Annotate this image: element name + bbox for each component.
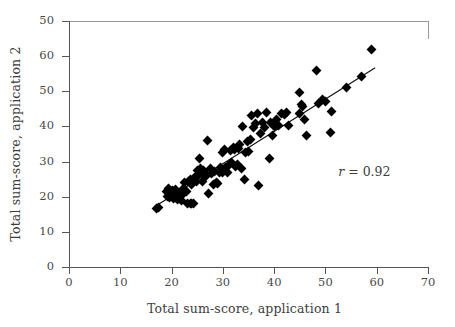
x-axis-tick	[377, 268, 378, 274]
plot-area	[69, 21, 428, 267]
x-axis-title: Total sum-score, application 1	[0, 301, 455, 316]
x-axis-tick-label: 50	[305, 277, 345, 289]
x-axis-tick-label: 0	[49, 277, 89, 289]
y-axis-tick-label: 60	[14, 50, 54, 62]
x-axis-tick	[325, 268, 326, 274]
x-axis-tick-label: 70	[408, 277, 448, 289]
y-axis-tick	[62, 91, 69, 92]
x-axis-tick	[428, 268, 429, 274]
x-axis-tick-label: 40	[254, 277, 294, 289]
y-axis-tick-label: 50	[14, 85, 54, 97]
x-axis-tick	[120, 268, 121, 274]
y-axis-tick	[62, 162, 69, 163]
y-axis-title: Total sum-score, application 2	[8, 46, 23, 241]
scatter-plot-figure: Total sum-score, application 2 Total sum…	[0, 0, 455, 327]
correlation-annotation: r = 0.92	[338, 164, 390, 179]
y-axis-tick-label: 10	[14, 226, 54, 238]
y-axis-tick	[62, 21, 69, 22]
y-axis-tick	[62, 56, 69, 57]
y-axis-tick	[62, 267, 69, 268]
x-axis-tick-label: 60	[357, 277, 397, 289]
x-axis-tick-label: 30	[203, 277, 243, 289]
x-axis-tick	[69, 268, 70, 274]
x-axis-tick	[172, 268, 173, 274]
y-axis-tick-label: 50	[14, 15, 54, 27]
y-axis-tick	[62, 232, 69, 233]
x-axis-tick-label: 10	[100, 277, 140, 289]
plot-frame-right	[428, 21, 429, 39]
x-axis-tick	[274, 268, 275, 274]
correlation-value: = 0.92	[344, 164, 390, 179]
y-axis-tick-label: 40	[14, 120, 54, 132]
y-axis-tick-label: 0	[14, 261, 54, 273]
y-axis-tick	[62, 126, 69, 127]
x-axis-tick-label: 20	[152, 277, 192, 289]
x-axis-tick	[223, 268, 224, 274]
y-axis-tick-label: 30	[14, 156, 54, 168]
y-axis-tick	[62, 197, 69, 198]
x-axis-line	[69, 267, 429, 268]
y-axis-tick-label: 20	[14, 191, 54, 203]
